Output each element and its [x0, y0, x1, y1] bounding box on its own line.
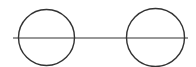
diagram-canvas [0, 0, 196, 67]
